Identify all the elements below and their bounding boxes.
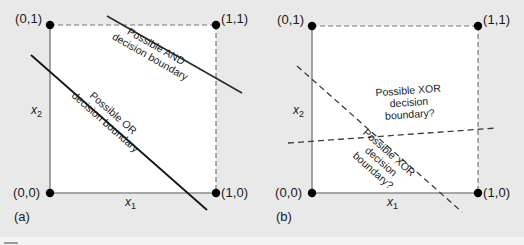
panel-a-point-0-0	[46, 189, 54, 197]
panel-b-x-axis-label-sub: 1	[393, 201, 398, 211]
panel-b-point-0-1	[308, 22, 316, 30]
panel-b-corner-label-0-1: (0,1)	[277, 13, 304, 26]
panel-b-corner-label-1-1: (1,1)	[483, 13, 510, 26]
panel-a-corner-label-0-1: (0,1)	[15, 12, 42, 25]
panel-b-xor-boundary-shallow-label: Possible XOR decision boundary?	[367, 82, 451, 123]
panel-a-y-axis-label: x2	[31, 104, 42, 119]
figure-drawing-layer	[0, 0, 524, 245]
panel-b-point-1-1	[474, 22, 482, 30]
panel-a-point-0-1	[46, 21, 54, 29]
caption-rule-mark	[4, 242, 18, 244]
panel-a-label: (a)	[14, 210, 30, 223]
panel-a-corner-label-1-1: (1,1)	[221, 12, 248, 25]
panel-a-corner-label-0-0: (0,0)	[13, 186, 40, 199]
panel-b-point-0-0	[308, 189, 316, 197]
panel-b-y-axis-label-sub: 2	[299, 109, 304, 119]
panel-b-corner-label-1-0: (1,0)	[483, 186, 510, 199]
panel-b-label: (b)	[276, 210, 292, 223]
panel-b-corner-label-0-0: (0,0)	[275, 186, 302, 199]
panel-a-point-1-1	[212, 21, 220, 29]
panel-b-point-1-0	[474, 189, 482, 197]
panel-b-y-axis-label: x2	[293, 104, 304, 119]
panel-a-point-1-0	[212, 189, 220, 197]
panel-a-y-axis-label-sub: 2	[37, 109, 42, 119]
panel-a-x-axis-label-sub: 1	[131, 201, 136, 211]
panel-a-corner-label-1-0: (1,0)	[221, 186, 248, 199]
panel-a-x-axis-label: x1	[125, 196, 136, 211]
figure-container: (0,1) (1,1) (0,0) (1,0) x2 x1 (a) Possib…	[0, 0, 524, 245]
page-bottom-strip	[0, 237, 524, 245]
